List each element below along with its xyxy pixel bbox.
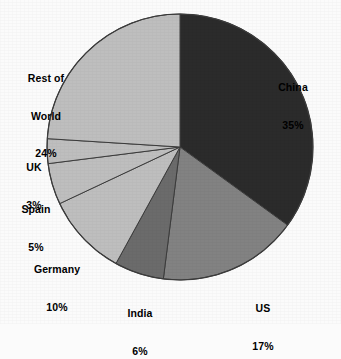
- pie-label-rest-of-world: Rest of World 24%: [10, 47, 82, 185]
- pie-label-india-value: 6%: [112, 345, 168, 358]
- pie-label-china-name: China: [262, 81, 324, 94]
- pie-label-rest-of-world-value: 24%: [10, 147, 82, 160]
- pie-label-spain-value: 5%: [8, 241, 64, 254]
- pie-label-us-value: 17%: [232, 340, 294, 353]
- pie-label-india: India 6%: [112, 282, 168, 359]
- pie-label-us: US 17%: [232, 277, 294, 359]
- pie-label-germany-value: 10%: [16, 301, 98, 314]
- pie-label-india-name: India: [112, 307, 168, 320]
- pie-label-rest-of-world-name-line2: World: [10, 110, 82, 123]
- pie-label-uk-value: 3%: [8, 199, 60, 212]
- pie-label-us-name: US: [232, 302, 294, 315]
- pie-label-china-value: 35%: [262, 119, 324, 132]
- pie-label-china: China 35%: [262, 56, 324, 156]
- pie-label-rest-of-world-name-line1: Rest of: [10, 72, 82, 85]
